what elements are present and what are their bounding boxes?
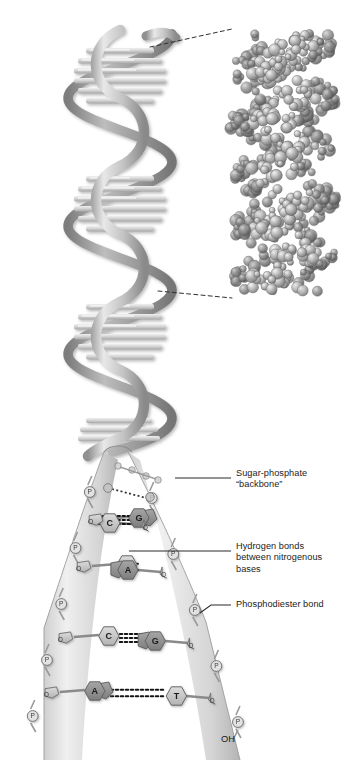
ribbon-double-helix [68, 30, 176, 456]
svg-text:P: P [59, 600, 64, 607]
nitrogenous-base: A [111, 561, 138, 579]
svg-text:O: O [161, 571, 166, 578]
svg-text:G: G [152, 636, 159, 646]
svg-text:P: P [73, 544, 78, 551]
phosphate-group: P [56, 599, 67, 610]
svg-text:P: P [30, 712, 35, 719]
svg-text:O: O [88, 518, 93, 525]
label-sugar-phosphate-backbone: Sugar-phosphate “backbone” [236, 468, 307, 491]
nitrogenous-base: A [85, 682, 113, 700]
svg-text:O: O [209, 697, 214, 704]
phosphate-group: P [42, 655, 53, 666]
space-filling-model [225, 29, 341, 296]
phosphate-group: P [211, 661, 222, 672]
sugar-pentagon: O [160, 567, 167, 578]
nitrogenous-base: C [99, 627, 119, 645]
phosphate-group: P [189, 605, 200, 616]
dna-figure: PPPPPPPPPP GCOOTAOOCGOOATOO Sugar-phosph… [0, 0, 360, 760]
nitrogenous-base: G [138, 632, 165, 650]
phosphate-group: P [70, 543, 81, 554]
phosphate-group: P [168, 549, 179, 560]
label-phosphodiester-bond: Phosphodiester bond [236, 599, 324, 610]
glycosidic-link [138, 570, 161, 572]
hydrogen-bonds [106, 690, 166, 696]
svg-text:O: O [44, 691, 49, 698]
phosphate-group: P [84, 487, 95, 498]
nitrogenous-base: T [166, 687, 186, 705]
svg-text:P: P [45, 656, 50, 663]
svg-text:P: P [193, 606, 198, 613]
svg-text:O: O [58, 636, 63, 643]
backbone-bands [44, 452, 240, 760]
svg-text:P: P [236, 718, 241, 725]
svg-text:C: C [107, 518, 114, 528]
figure-canvas: PPPPPPPPPP GCOOTAOOCGOOATOO [0, 0, 360, 760]
nitrogenous-base: C [100, 514, 120, 532]
svg-text:P: P [214, 662, 219, 669]
label-hydrogen-bonds: Hydrogen bonds between nitrogenous bases [236, 541, 322, 575]
svg-text:C: C [106, 631, 113, 641]
label-hydroxyl-terminus: OH [221, 733, 235, 744]
svg-text:O: O [188, 642, 193, 649]
leader-phosphodiester [200, 605, 231, 613]
svg-text:P: P [88, 488, 93, 495]
svg-text:T: T [174, 691, 180, 701]
svg-text:A: A [92, 686, 99, 696]
unwound-base-pair-ladder: PPPPPPPPPP GCOOTAOOCGOOATOO [27, 446, 243, 760]
svg-text:A: A [125, 565, 132, 575]
svg-text:O: O [143, 524, 148, 531]
phosphate-group: P [27, 711, 38, 722]
phosphate-group: P [233, 717, 244, 728]
svg-text:G: G [135, 513, 142, 523]
svg-text:O: O [76, 565, 81, 572]
